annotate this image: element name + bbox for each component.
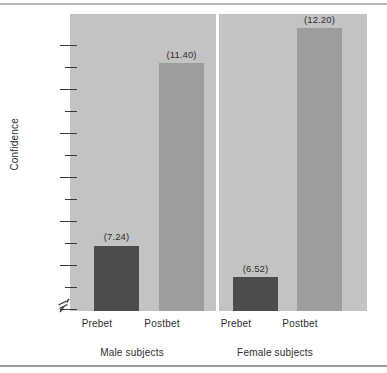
xtick-label-female-postbet: Postbet	[265, 318, 335, 329]
bar-label-male-prebet: (7.24)	[84, 231, 149, 242]
bar-label-female-prebet: (6.52)	[223, 263, 288, 274]
bar-male-postbet	[159, 63, 204, 311]
panel-divider	[216, 14, 219, 311]
plot-area: 6.0 7.0 8.0 9.0 10.0 11.0 12.0 (7.24) (1…	[70, 14, 367, 311]
ytick-minor-8p5	[65, 199, 77, 201]
y-axis-label-text: Confidence	[9, 118, 20, 171]
ytick-minor-10p5	[65, 111, 77, 113]
xtick-label-female-prebet: Prebet	[201, 318, 271, 329]
bar-label-female-postbet: (12.20)	[287, 14, 352, 25]
ytick-minor-7p5	[65, 243, 77, 245]
ytick-major-7	[60, 265, 77, 267]
ytick-major-11	[60, 89, 77, 91]
ytick-major-10	[60, 133, 77, 135]
axis-break-icon	[58, 296, 72, 314]
top-rule	[0, 3, 387, 5]
y-axis-label: Confidence	[9, 65, 20, 118]
bar-label-male-postbet: (11.40)	[149, 49, 214, 60]
ytick-major-8	[60, 221, 77, 223]
ytick-major-12	[60, 45, 77, 47]
bottom-rule	[0, 365, 387, 367]
xtick-label-male-postbet: Postbet	[127, 318, 197, 329]
bar-male-prebet	[94, 246, 139, 312]
bar-female-postbet	[297, 28, 342, 311]
group-label-male: Male subjects	[87, 347, 177, 358]
ytick-minor-9p5	[65, 155, 77, 157]
bar-female-prebet	[233, 277, 278, 311]
ytick-minor-11p5	[65, 67, 77, 69]
ytick-minor-6p5	[65, 287, 77, 289]
figure: 6.0 7.0 8.0 9.0 10.0 11.0 12.0 (7.24) (1…	[0, 0, 387, 373]
group-label-female: Female subjects	[225, 347, 325, 358]
ytick-major-9	[60, 177, 77, 179]
xtick-label-male-prebet: Prebet	[62, 318, 132, 329]
